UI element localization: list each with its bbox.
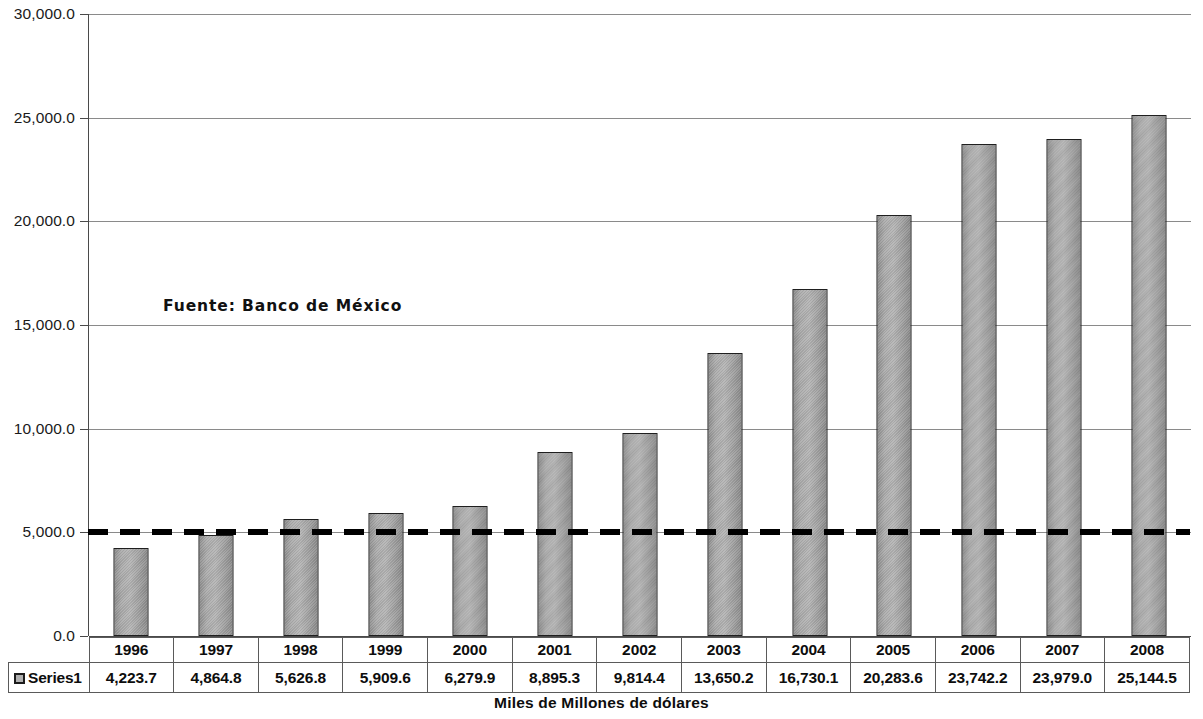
y-axis-label: 20,000.0 — [14, 212, 75, 230]
y-tick-15000 — [80, 325, 88, 326]
bar-column — [343, 14, 428, 636]
table-corner-cell — [9, 638, 90, 663]
bar-column — [1021, 14, 1106, 636]
table-value-cell: 4,864.8 — [174, 663, 259, 693]
table-year-cell: 1996 — [89, 638, 174, 663]
table-year-cell: 1997 — [174, 638, 259, 663]
bar-column — [513, 14, 598, 636]
table-year-cell: 2000 — [428, 638, 513, 663]
table-value-cell: 13,650.2 — [681, 663, 766, 693]
y-tick-25000 — [80, 118, 88, 119]
y-axis-label: 10,000.0 — [14, 420, 75, 438]
table-value-cell: 23,742.2 — [935, 663, 1020, 693]
source-annotation: Fuente: Banco de México — [163, 297, 402, 315]
bar-column — [767, 14, 852, 636]
table-year-cell: 2002 — [597, 638, 682, 663]
bar-column — [174, 14, 259, 636]
legend-label: Series1 — [28, 669, 82, 686]
table-year-cell: 2005 — [851, 638, 936, 663]
table-year-cell: 2004 — [766, 638, 851, 663]
plot-area — [88, 14, 1190, 636]
bar-2000 — [453, 506, 488, 636]
table-value-cell: 16,730.1 — [766, 663, 851, 693]
bar-column — [89, 14, 174, 636]
bar-1997 — [199, 535, 234, 636]
table-value-cell: 4,223.7 — [89, 663, 174, 693]
bar-column — [682, 14, 767, 636]
bar-2005 — [877, 215, 912, 636]
table-year-cell: 2006 — [935, 638, 1020, 663]
y-tick-10000 — [80, 429, 88, 430]
bar-1996 — [114, 548, 149, 636]
table-value-cell: 6,279.9 — [428, 663, 513, 693]
table-year-cell: 1998 — [258, 638, 343, 663]
table-value-cell: 25,144.5 — [1105, 663, 1190, 693]
table-row-years: 1996199719981999200020012002200320042005… — [9, 638, 1190, 663]
y-tick-30000 — [80, 14, 88, 15]
y-tick-20000 — [80, 221, 88, 222]
table-year-cell: 2007 — [1020, 638, 1105, 663]
table-value-cell: 20,283.6 — [851, 663, 936, 693]
table-year-cell: 2008 — [1105, 638, 1190, 663]
y-axis-label: 30,000.0 — [14, 5, 75, 23]
bar-2008 — [1131, 115, 1166, 636]
table-value-cell: 9,814.4 — [597, 663, 682, 693]
bar-column — [852, 14, 937, 636]
table-row-values: Series14,223.74,864.85,626.85,909.66,279… — [9, 663, 1190, 693]
bar-2003 — [707, 353, 742, 636]
bar-column — [937, 14, 1022, 636]
x-axis-title: Miles de Millones de dólares — [0, 694, 1203, 712]
bar-2004 — [792, 289, 827, 636]
table-year-cell: 2003 — [681, 638, 766, 663]
bar-column — [598, 14, 683, 636]
data-table: 1996199719981999200020012002200320042005… — [8, 637, 1190, 693]
bar-2001 — [538, 452, 573, 636]
y-axis-label: 15,000.0 — [14, 316, 75, 334]
y-axis-label: 5,000.0 — [23, 523, 75, 541]
reference-line-5000 — [88, 529, 1190, 535]
legend-swatch-icon — [14, 673, 25, 684]
y-axis-label: 25,000.0 — [14, 109, 75, 127]
bar-2007 — [1046, 139, 1081, 636]
bar-1998 — [283, 519, 318, 636]
legend-cell: Series1 — [9, 663, 90, 693]
bar-2006 — [962, 144, 997, 636]
table-year-cell: 1999 — [343, 638, 428, 663]
table-value-cell: 8,895.3 — [512, 663, 597, 693]
table-value-cell: 5,626.8 — [258, 663, 343, 693]
bar-column — [1106, 14, 1191, 636]
bar-column — [428, 14, 513, 636]
bar-series — [89, 14, 1191, 636]
table-year-cell: 2001 — [512, 638, 597, 663]
table-value-cell: 5,909.6 — [343, 663, 428, 693]
table-value-cell: 23,979.0 — [1020, 663, 1105, 693]
y-tick-5000 — [80, 532, 88, 533]
bar-column — [259, 14, 344, 636]
chart-canvas: 0.05,000.010,000.015,000.020,000.025,000… — [0, 0, 1203, 719]
